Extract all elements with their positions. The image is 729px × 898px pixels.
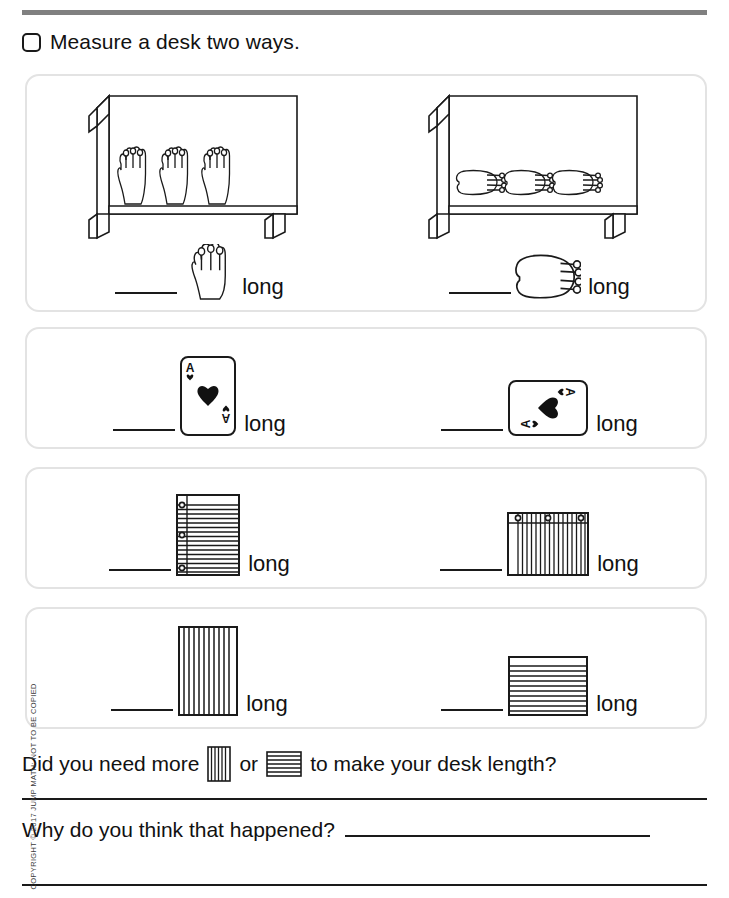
answer-rule-top — [22, 798, 707, 800]
answer-row-horizontal-stripes: long — [372, 655, 707, 717]
desk-open-hands-illustration — [27, 86, 372, 241]
panel-paper-left-cell: long — [27, 469, 372, 587]
long-label: long — [597, 553, 639, 575]
exercise-panel-cards: A A long A — [25, 327, 707, 449]
answer-blank-horizontal-stripes[interactable] — [441, 709, 503, 711]
long-label: long — [248, 553, 290, 575]
exercise-panel-paper: long — [25, 467, 707, 589]
answer-blank-vertical-stripes[interactable] — [111, 709, 173, 711]
long-label: long — [246, 693, 288, 715]
svg-text:A: A — [186, 361, 195, 375]
vertical-striped-block-icon — [177, 625, 239, 717]
copyright-notice: COPYRIGHT © 2017 JUMP MATH: NOT TO BE CO… — [29, 720, 38, 890]
answer-row-closed-hand: long — [372, 254, 707, 300]
cut-off-header-text — [300, 0, 500, 8]
panel-cards-right-cell: A A long — [372, 329, 707, 447]
panel-cards-left-cell: A A long — [27, 329, 372, 447]
svg-text:A: A — [519, 419, 533, 428]
long-label: long — [242, 276, 284, 298]
long-label: long — [596, 693, 638, 715]
answer-blank-paper-portrait[interactable] — [109, 569, 171, 571]
header-rule — [22, 10, 707, 15]
panel-stripes-right-cell: long — [372, 609, 707, 727]
answer-blank-open-hand[interactable] — [115, 292, 177, 294]
answer-blank-card-landscape[interactable] — [441, 429, 503, 431]
instruction-row: Measure a desk two ways. — [22, 30, 300, 54]
playing-card-portrait-icon: A A — [179, 355, 237, 437]
exercise-panel-stripes: long long — [25, 607, 707, 729]
exercise-panel-hands: long — [25, 74, 707, 312]
worksheet-page: Measure a desk two ways. — [0, 0, 729, 898]
vertical-striped-block-icon — [207, 746, 231, 782]
answer-row-open-hand: long — [27, 244, 372, 300]
question-more-part2: or — [239, 752, 258, 776]
long-label: long — [588, 276, 630, 298]
answer-rule-bottom — [22, 884, 707, 886]
lined-paper-landscape-icon — [506, 511, 590, 577]
long-label: long — [244, 413, 286, 435]
answer-row-paper-landscape: long — [372, 511, 707, 577]
answer-row-paper-portrait: long — [27, 493, 372, 577]
question-why-row: Why do you think that happened? — [22, 818, 650, 842]
question-more-part3: to make your desk length? — [310, 752, 556, 776]
panel-paper-right-cell: long — [372, 469, 707, 587]
desk-closed-hands-illustration — [372, 86, 707, 241]
open-hand-icon — [181, 244, 235, 300]
answer-blank-card-portrait[interactable] — [113, 429, 175, 431]
panel-hands-right-cell: long — [372, 76, 707, 310]
answer-row-vertical-stripes: long — [27, 625, 372, 717]
answer-row-card-landscape: A A long — [372, 379, 707, 437]
panel-hands-left-cell: long — [27, 76, 372, 310]
closed-hand-icon — [515, 254, 581, 300]
question-why-label: Why do you think that happened? — [22, 818, 335, 842]
instruction-label: Measure a desk two ways. — [50, 30, 300, 54]
panel-stripes-left-cell: long — [27, 609, 372, 727]
instruction-checkbox[interactable] — [22, 33, 41, 52]
question-more-part1: Did you need more — [22, 752, 199, 776]
playing-card-landscape-icon: A A — [507, 379, 589, 437]
answer-blank-closed-hand[interactable] — [449, 292, 511, 294]
svg-text:A: A — [563, 388, 577, 397]
lined-paper-portrait-icon — [175, 493, 241, 577]
question-more-row: Did you need more or to make your desk l… — [22, 746, 556, 782]
svg-text:A: A — [222, 411, 231, 425]
long-label: long — [596, 413, 638, 435]
answer-blank-paper-landscape[interactable] — [440, 569, 502, 571]
answer-row-card-portrait: A A long — [27, 355, 372, 437]
horizontal-striped-block-icon — [507, 655, 589, 717]
question-why-answer-line[interactable] — [345, 835, 650, 837]
horizontal-striped-block-icon — [266, 751, 302, 777]
